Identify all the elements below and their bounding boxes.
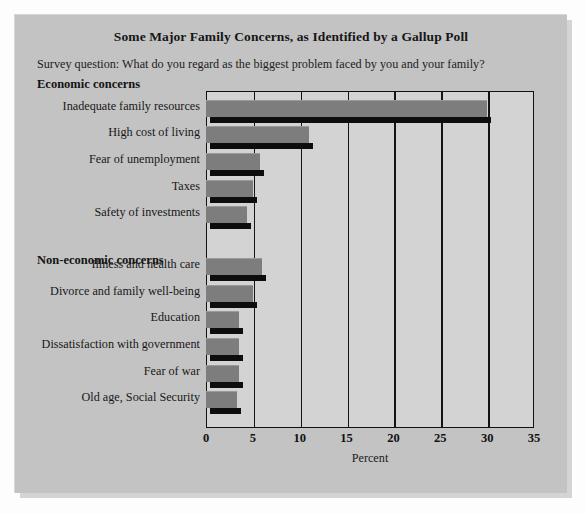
bar-container[interactable] <box>206 180 253 197</box>
bar[interactable] <box>206 153 260 170</box>
category-label: Safety of investments <box>94 205 200 220</box>
category-label: Dissatisfaction with government <box>42 337 200 352</box>
category-label: Illness and health care <box>91 257 200 272</box>
bar-rows: Inadequate family resourcesHigh cost of … <box>206 91 548 428</box>
bar-shadow <box>210 170 264 176</box>
bar-container[interactable] <box>206 391 237 408</box>
bar-container[interactable] <box>206 100 487 117</box>
bar[interactable] <box>206 206 247 223</box>
x-tick-label-5: 5 <box>250 431 256 446</box>
category-label: Taxes <box>172 179 200 194</box>
x-tick-label-15: 15 <box>340 431 353 446</box>
figure-panel: Some Major Family Concerns, as Identifie… <box>14 14 567 493</box>
figure-title: Some Major Family Concerns, as Identifie… <box>15 29 567 45</box>
x-tick-label-20: 20 <box>387 431 400 446</box>
x-tick-label-35: 35 <box>528 431 541 446</box>
bar-shadow <box>210 355 243 361</box>
x-axis-ticks: 05101520253035 <box>206 431 534 449</box>
bar-shadow <box>210 408 241 414</box>
bar-container[interactable] <box>206 338 239 355</box>
x-tick-label-30: 30 <box>481 431 494 446</box>
category-label: Education <box>151 310 200 325</box>
bar-shadow <box>210 117 491 123</box>
category-label: Fear of war <box>144 364 200 379</box>
bar[interactable] <box>206 365 239 382</box>
x-tick-label-0: 0 <box>203 431 209 446</box>
bar-shadow <box>210 197 257 203</box>
x-axis-label: Percent <box>206 451 534 466</box>
bar[interactable] <box>206 180 253 197</box>
bar-shadow <box>210 143 313 149</box>
bar-container[interactable] <box>206 258 262 275</box>
bar-container[interactable] <box>206 206 247 223</box>
bar-container[interactable] <box>206 126 309 143</box>
category-label: Inadequate family resources <box>63 99 200 114</box>
bar-shadow <box>210 328 243 334</box>
bar-container[interactable] <box>206 365 239 382</box>
bar[interactable] <box>206 391 237 408</box>
bar[interactable] <box>206 258 262 275</box>
category-label: Old age, Social Security <box>82 390 200 405</box>
bar-shadow <box>210 275 266 281</box>
bar-shadow <box>210 223 251 229</box>
bar[interactable] <box>206 311 239 328</box>
page-canvas: Some Major Family Concerns, as Identifie… <box>0 0 586 514</box>
bar-container[interactable] <box>206 153 260 170</box>
bar-container[interactable] <box>206 311 239 328</box>
group-heading-economic: Economic concerns <box>37 77 140 92</box>
bar-container[interactable] <box>206 285 253 302</box>
figure-subtitle: Survey question: What do you regard as t… <box>37 57 557 72</box>
bar[interactable] <box>206 100 487 117</box>
x-tick-label-10: 10 <box>293 431 306 446</box>
bar-shadow <box>210 382 243 388</box>
bar[interactable] <box>206 338 239 355</box>
category-label: High cost of living <box>108 125 200 140</box>
bar-shadow <box>210 302 257 308</box>
category-label: Divorce and family well-being <box>50 284 200 299</box>
category-label: Fear of unemployment <box>89 152 200 167</box>
bar[interactable] <box>206 126 309 143</box>
bar[interactable] <box>206 285 253 302</box>
x-tick-label-25: 25 <box>434 431 447 446</box>
